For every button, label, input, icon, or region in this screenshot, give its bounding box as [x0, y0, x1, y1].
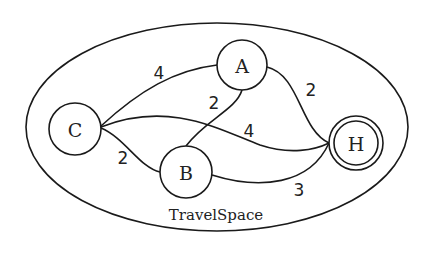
- node-B: B: [160, 146, 212, 198]
- weight-C-B: 2: [118, 148, 129, 168]
- node-C: C: [49, 103, 101, 155]
- node-A-label: A: [234, 55, 249, 77]
- graph-diagram: 4 2 4 2 2 3 C A B H TravelSpace: [0, 0, 434, 254]
- weight-A-H: 2: [306, 80, 317, 100]
- weight-C-A: 4: [154, 63, 165, 83]
- node-B-label: B: [179, 162, 193, 184]
- weight-C-H: 4: [244, 121, 255, 141]
- edge-C-B: [101, 128, 160, 172]
- weight-A-B: 2: [209, 93, 220, 113]
- region-label: TravelSpace: [169, 206, 263, 224]
- node-H-label: H: [348, 133, 365, 155]
- weight-B-H: 3: [294, 180, 305, 200]
- edge-A-H: [267, 67, 329, 143]
- node-A: A: [217, 40, 267, 90]
- node-C-label: C: [68, 119, 83, 141]
- edge-C-H: [101, 116, 329, 150]
- node-H-accepting: H: [329, 116, 383, 170]
